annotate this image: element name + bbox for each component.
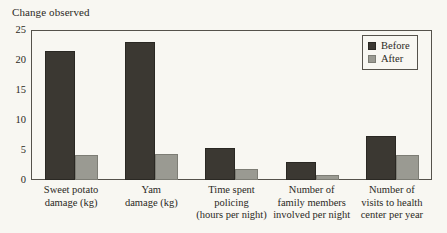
legend-swatch-after — [368, 55, 376, 63]
bar-before — [45, 51, 75, 180]
legend-label: Before — [381, 40, 410, 52]
y-axis-tick-label: 25 — [16, 24, 27, 36]
bar-before — [125, 42, 155, 180]
y-axis: 0510152025 — [0, 24, 31, 186]
bar-after — [155, 154, 178, 180]
x-axis-category-label: Yamdamage (kg) — [105, 184, 197, 209]
bar-before — [205, 148, 235, 180]
bar-after — [396, 155, 419, 180]
legend-item[interactable]: Before — [368, 39, 410, 52]
bar-chart: Change observed 0510152025 Sweet potatod… — [0, 0, 447, 233]
bar-after — [316, 175, 339, 180]
legend-swatch-before — [368, 42, 376, 50]
bar-after — [75, 155, 98, 180]
chart-legend: BeforeAfter — [362, 35, 418, 70]
legend-item[interactable]: After — [368, 52, 410, 65]
bar-group — [31, 30, 111, 180]
y-axis-tick-label: 10 — [16, 114, 27, 126]
bar-group — [111, 30, 191, 180]
bar-after — [235, 169, 258, 180]
y-axis-tick-label: 15 — [16, 84, 27, 96]
x-axis-labels: Sweet potatodamage (kg)Yamdamage (kg)Tim… — [31, 184, 432, 230]
legend-label: After — [381, 53, 403, 65]
x-axis-category-label: Sweet potatodamage (kg) — [25, 184, 117, 209]
x-axis-category-label: Number ofvisits to healthcenter per year — [346, 184, 438, 222]
bar-before — [286, 162, 316, 180]
x-axis-category-label: Number offamily membersinvolved per nigh… — [266, 184, 358, 222]
y-axis-tick-label: 20 — [16, 54, 27, 66]
y-axis-tick-label: 5 — [21, 144, 26, 156]
chart-title: Change observed — [12, 6, 90, 19]
bar-group — [272, 30, 352, 180]
bar-before — [366, 136, 396, 180]
bar-group — [191, 30, 271, 180]
x-axis-category-label: Time spentpolicing(hours per night) — [185, 184, 277, 222]
